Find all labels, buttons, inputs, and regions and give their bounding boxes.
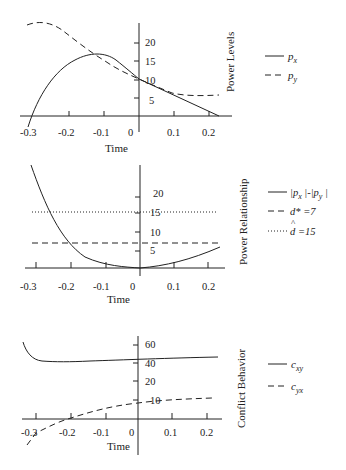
figure: -0.3 -0.2 -0.1 0 0.1 0.2 5 10 15 20 Time… bbox=[0, 0, 346, 470]
x-tick-label: 0.2 bbox=[202, 281, 215, 292]
y-tick-label: 60 bbox=[145, 339, 156, 350]
y-tick-label: 40 bbox=[145, 358, 156, 369]
x-tick-label: 0.1 bbox=[167, 127, 180, 138]
y-tick-label: 20 bbox=[145, 37, 156, 48]
x-tick-label: 0 bbox=[128, 127, 133, 138]
x-tick-label: 0 bbox=[129, 427, 134, 438]
y-tick-label: 15 bbox=[145, 56, 156, 67]
legend-conflict-behavior: cxy cyx bbox=[268, 358, 303, 395]
y-tick-label: 5 bbox=[149, 95, 154, 106]
x-ticks bbox=[36, 262, 208, 268]
y-tick-labels: 5 10 15 20 bbox=[150, 188, 164, 256]
x-tick-label: 0.1 bbox=[167, 281, 180, 292]
legend-label-p-x: px bbox=[287, 50, 298, 65]
x-tick-label: -0.3 bbox=[20, 281, 37, 292]
legend-label-c-yx: cyx bbox=[291, 380, 303, 395]
x-tick-labels: -0.3 -0.2 -0.1 0 0.1 0.2 bbox=[21, 427, 213, 438]
legend-power-levels: px py bbox=[265, 50, 298, 84]
x-tick-labels: -0.3 -0.2 -0.1 0 0.1 0.2 bbox=[20, 281, 215, 292]
y-ticks bbox=[134, 43, 139, 98]
x-axis-label: Time bbox=[105, 142, 128, 154]
y-tick-labels: 10 20 40 60 bbox=[145, 339, 161, 406]
panel-power-levels: -0.3 -0.2 -0.1 0 0.1 0.2 5 10 15 20 Time… bbox=[20, 23, 298, 154]
y-tick-label: 10 bbox=[150, 227, 161, 238]
x-tick-label: 0 bbox=[130, 281, 135, 292]
series-p-y bbox=[27, 23, 219, 96]
legend-label-abs-diff: |px |-|py | bbox=[290, 187, 328, 201]
panel-conflict-behavior: -0.3 -0.2 -0.1 0 0.1 0.2 10 20 40 60 Tim… bbox=[21, 336, 303, 455]
y-tick-labels: 5 10 15 20 bbox=[145, 37, 156, 106]
x-tick-label: 0.2 bbox=[202, 127, 215, 138]
x-tick-labels: -0.3 -0.2 -0.1 0 0.1 0.2 bbox=[20, 127, 215, 138]
x-ticks bbox=[36, 413, 207, 419]
x-tick-label: -0.1 bbox=[93, 427, 110, 438]
y-axis-label: Power Levels bbox=[224, 32, 236, 92]
x-tick-label: -0.3 bbox=[20, 127, 37, 138]
y-ticks bbox=[133, 345, 138, 400]
legend-label-c-xy: cxy bbox=[291, 358, 303, 373]
x-tick-label: -0.2 bbox=[59, 427, 76, 438]
y-axis-label: Power Relationship bbox=[237, 178, 249, 265]
x-tick-label: -0.1 bbox=[93, 281, 110, 292]
x-axis-label: Time bbox=[107, 293, 130, 305]
x-axis-label: Time bbox=[107, 440, 130, 452]
legend-label-d-star: d* =7 bbox=[290, 206, 316, 217]
x-tick-label: -0.1 bbox=[93, 127, 110, 138]
y-tick-label: 20 bbox=[145, 376, 156, 387]
y-tick-label: 20 bbox=[153, 188, 164, 199]
x-tick-label: 0.2 bbox=[200, 427, 213, 438]
series-c-yx bbox=[27, 398, 212, 445]
x-tick-label: -0.2 bbox=[58, 281, 75, 292]
x-tick-label: -0.2 bbox=[58, 127, 75, 138]
legend-label-p-y: py bbox=[287, 69, 298, 84]
panel-power-relationship: -0.3 -0.2 -0.1 0 0.1 0.2 5 10 15 20 Time… bbox=[20, 165, 328, 305]
x-tick-label: 0.1 bbox=[164, 427, 177, 438]
y-axis-label: Conflict Behavior bbox=[235, 349, 247, 428]
legend-power-relationship: |px |-|py | d* =7 d =15 ^ bbox=[268, 187, 328, 237]
x-tick-label: -0.3 bbox=[21, 427, 38, 438]
series-px-minus-py bbox=[31, 165, 220, 268]
y-tick-label: 5 bbox=[150, 245, 155, 256]
series-c-xy bbox=[23, 342, 218, 362]
